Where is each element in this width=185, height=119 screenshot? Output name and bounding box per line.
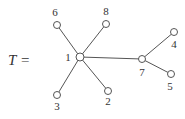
equals-sign: = [21,52,29,68]
node-8-icon [103,21,110,28]
edge-1-2 [80,57,108,91]
node-label-8: 8 [103,5,109,17]
node-label-3: 3 [54,100,60,112]
edge-7-4 [142,32,174,59]
edge-1-7 [80,57,142,59]
node-label-4: 4 [171,38,177,50]
node-label-5: 5 [167,80,173,92]
node-5-icon [168,71,175,78]
node-label-1: 1 [65,51,71,63]
node-3-icon [54,92,61,99]
tree-graph: T = 12345678 [0,0,185,119]
node-label-2: 2 [105,95,111,107]
edge-1-8 [80,24,106,57]
node-2-icon [105,88,112,95]
edges [57,24,174,95]
node-label-6: 6 [52,6,58,18]
edge-7-5 [142,59,171,74]
tree-diagram: T = 12345678 [0,0,185,119]
node-label-7: 7 [139,66,145,78]
nodes [54,21,178,99]
node-7-icon [139,56,146,63]
node-1-icon [76,53,84,61]
tree-symbol: T [8,52,18,68]
node-6-icon [54,22,61,29]
node-4-icon [171,29,178,36]
